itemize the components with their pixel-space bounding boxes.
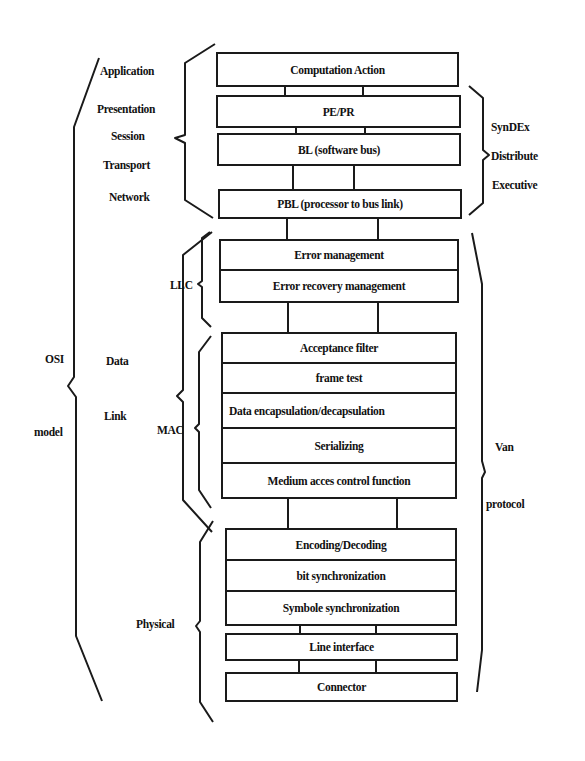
executive-label: Executive (492, 178, 537, 192)
physical-stack: Encoding/Decoding bit synchronization Sy… (225, 528, 457, 626)
mac-stack: Acceptance filter frame test Data encaps… (221, 332, 457, 499)
frame-test-cell: frame test (223, 364, 455, 394)
error-recovery-cell: Error recovery management (221, 271, 457, 301)
line-interface-box: Line interface (225, 633, 458, 661)
layer-link: Link (104, 409, 126, 423)
van-label: Van (495, 440, 514, 454)
layer-session: Session (111, 129, 145, 143)
syndex-brace (469, 86, 489, 215)
llc-brace (198, 232, 211, 327)
osi-brace (68, 58, 102, 701)
bit-synchronization-cell: bit synchronization (227, 561, 455, 592)
pbl-box: PBL (processor to bus link) (218, 189, 462, 219)
model-label: model (34, 425, 63, 439)
bl-box: BL (software bus) (217, 133, 461, 166)
data-link-brace (177, 232, 212, 532)
layer-transport: Transport (103, 158, 150, 172)
syndex-label: SynDEx (491, 120, 529, 134)
llc-stack: Error management Error recovery manageme… (219, 239, 459, 303)
layer-data: Data (106, 354, 128, 368)
encoding-decoding-cell: Encoding/Decoding (227, 530, 455, 561)
acceptance-filter-cell: Acceptance filter (223, 334, 455, 364)
distribute-label: Distribute (491, 149, 538, 163)
van-brace (472, 233, 485, 692)
upper-layers-brace (175, 44, 215, 218)
medium-access-cell: Medium acces control function (223, 464, 455, 497)
error-management-cell: Error management (221, 241, 457, 271)
protocol-label: protocol (486, 497, 524, 511)
layer-application: Application (100, 64, 154, 78)
computation-action-box: Computation Action (216, 52, 459, 87)
layer-network: Network (109, 190, 150, 204)
layer-presentation: Presentation (97, 102, 155, 116)
pe-pr-box: PE/PR (216, 95, 461, 128)
mac-brace (195, 336, 211, 508)
sublayer-mac: MAC (157, 423, 184, 437)
physical-brace (196, 521, 213, 722)
connector-box: Connector (225, 672, 458, 702)
symbole-synchronization-cell: Symbole synchronization (227, 592, 455, 624)
serializing-cell: Serializing (223, 429, 455, 464)
layer-physical: Physical (136, 617, 175, 631)
data-encapsulation-cell: Data encapsulation/decapsulation (223, 394, 455, 429)
sublayer-llc: LLC (170, 278, 193, 292)
osi-label: OSI (45, 352, 64, 366)
